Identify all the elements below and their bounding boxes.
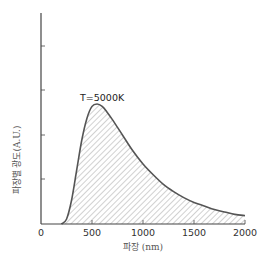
x-tick-label: 0 — [38, 227, 44, 238]
temperature-annotation: T=5000K — [79, 92, 125, 103]
x-tick-label: 1500 — [182, 227, 206, 238]
x-tick-label: 2000 — [233, 227, 257, 238]
plot-area — [61, 104, 245, 224]
blackbody-chart: 0500100015002000 T=5000K 파장 (nm) 파장별 광도(… — [0, 0, 272, 267]
x-tick-label: 500 — [83, 227, 101, 238]
hatched-area — [61, 104, 245, 224]
x-axis-label: 파장 (nm) — [123, 242, 163, 252]
x-tick-label: 1000 — [131, 227, 155, 238]
y-axis-label: 파장별 광도(A.U.) — [11, 126, 22, 195]
